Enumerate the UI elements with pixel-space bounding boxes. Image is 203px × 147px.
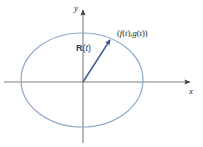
vector-label-paren-close: ) [88, 43, 91, 53]
parametric-curve-figure: y x R(t) (f(t),g(t)) [0, 0, 203, 147]
y-axis-label: y [73, 3, 78, 13]
point-label-close-paren: ) [145, 28, 148, 38]
x-axis-label: x [188, 86, 193, 96]
vector-label-R-of-t: R(t) [76, 43, 91, 53]
point-label-f-t-g-t: (f(t),g(t)) [117, 28, 148, 38]
figure-canvas: y x R(t) (f(t),g(t)) [0, 0, 203, 147]
